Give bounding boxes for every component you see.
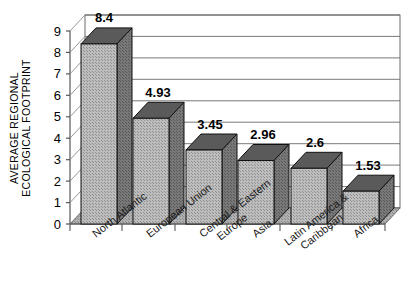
bar-value-label: 4.93 [145,85,170,100]
y-tick-label: 7 [54,66,61,81]
chart-container: 9 8 7 6 5 4 3 2 1 0 AVERAGE REGIONAL ECO… [0,0,417,303]
y-axis-title: AVERAGE REGIONAL ECOLOGICAL FOOTPRINT [8,59,32,197]
bar-value-label: 2.96 [250,127,275,142]
bar-value-label: 2.6 [306,135,324,150]
bar-value-label: 8.4 [95,10,114,25]
bar-value-label: 1.53 [355,158,380,173]
y-tick-label: 8 [54,45,61,60]
y-tick-label: 1 [54,195,61,210]
y-tick-label: 5 [54,109,61,124]
y-tick-label: 2 [54,174,61,189]
bar-chart-3d: 9 8 7 6 5 4 3 2 1 0 AVERAGE REGIONAL ECO… [0,0,417,303]
y-tick-label: 6 [54,88,61,103]
y-tick-label: 4 [54,131,61,146]
y-axis-title-line-2: ECOLOGICAL FOOTPRINT [20,59,32,197]
y-tick-label: 3 [54,152,61,167]
y-axis-title-line-1: AVERAGE REGIONAL [8,72,20,184]
bar-north-atlantic[interactable] [81,28,132,224]
y-tick-label: 9 [54,24,61,39]
y-tick-labels: 9 8 7 6 5 4 3 2 1 0 [54,24,61,232]
y-tick-label: 0 [54,217,61,232]
bar-value-label: 3.45 [197,117,222,132]
